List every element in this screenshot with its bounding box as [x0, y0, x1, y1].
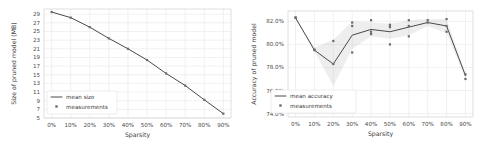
x-tick-label: 80%	[440, 121, 452, 127]
legend-marker-swatch	[55, 105, 57, 107]
measurement-point	[108, 37, 110, 39]
x-tick-label: 20%	[84, 122, 96, 128]
x-tick-label: 40%	[122, 122, 134, 128]
y-tick-label: 82.0%	[266, 18, 284, 24]
legend-marker-swatch	[279, 104, 281, 106]
measurement-point	[294, 16, 296, 18]
y-axis-label: Size of pruned model (MB)	[10, 22, 18, 104]
legend-label-mean: mean size	[66, 94, 95, 100]
y-tick-label: 19	[33, 54, 41, 60]
x-tick-label: 90%	[459, 121, 471, 127]
y-tick-label: 7	[36, 106, 40, 112]
measurement-point	[370, 31, 372, 33]
x-tick-label: 70%	[179, 122, 191, 128]
x-tick-label: 40%	[365, 121, 377, 127]
x-tick-label: 10%	[308, 121, 320, 127]
x-axis-label: Sparsity	[368, 130, 394, 138]
measurement-point	[184, 84, 186, 86]
measurement-point	[427, 21, 429, 23]
y-tick-label: 9	[36, 98, 40, 104]
y-tick-label: 27	[33, 20, 41, 26]
measurement-point	[389, 26, 391, 28]
y-tick-label: 21	[33, 46, 41, 52]
measurement-point	[408, 19, 410, 21]
x-tick-label: 80%	[198, 122, 210, 128]
measurement-point	[146, 59, 148, 61]
measurement-point	[165, 72, 167, 74]
measurement-point	[445, 18, 447, 20]
y-tick-label: 80.0%	[266, 41, 284, 47]
y-tick-label: 23	[33, 37, 41, 43]
accuracy-chart-svg: 74.0%76.0%78.0%80.0%82.0%0%10%20%30%40%5…	[240, 0, 480, 146]
x-axis-label: Sparsity	[125, 131, 151, 139]
y-tick-label: 17	[33, 63, 41, 69]
x-tick-label: 0%	[291, 121, 300, 127]
x-tick-label: 30%	[103, 122, 115, 128]
measurement-point	[464, 78, 466, 80]
y-tick-label: 29	[33, 11, 41, 17]
x-tick-label: 20%	[327, 121, 339, 127]
measurement-point	[389, 24, 391, 26]
x-tick-label: 30%	[346, 121, 358, 127]
measurement-point	[51, 11, 53, 13]
measurement-point	[464, 73, 466, 75]
y-tick-label: 5	[36, 115, 40, 121]
x-tick-label: 0%	[47, 122, 56, 128]
y-tick-label: 78.0%	[266, 64, 284, 70]
measurement-point	[370, 33, 372, 35]
accuracy-chart-panel: 74.0%76.0%78.0%80.0%82.0%0%10%20%30%40%5…	[240, 0, 480, 146]
figure-root: 579111315171921232527290%10%20%30%40%50%…	[0, 0, 480, 146]
measurement-point	[351, 25, 353, 27]
measurement-point	[351, 51, 353, 53]
x-tick-label: 90%	[217, 122, 229, 128]
measurement-point	[370, 19, 372, 21]
measurement-point	[89, 26, 91, 28]
measurement-point	[313, 48, 315, 50]
x-tick-label: 70%	[421, 121, 433, 127]
x-tick-label: 60%	[160, 122, 172, 128]
y-axis-label: Accuracy of pruned model	[250, 23, 258, 105]
x-tick-label: 50%	[141, 122, 153, 128]
y-tick-label: 25	[33, 28, 41, 34]
measurement-point	[127, 48, 129, 50]
legend-label-measurements: measurements	[66, 104, 108, 110]
measurement-point	[332, 63, 334, 65]
y-tick-label: 13	[33, 80, 41, 86]
measurement-point	[389, 43, 391, 45]
measurement-point	[222, 113, 224, 115]
measurement-point	[445, 31, 447, 33]
measurement-point	[408, 35, 410, 37]
y-tick-label: 15	[33, 72, 41, 78]
measurement-point	[427, 19, 429, 21]
measurement-point	[445, 25, 447, 27]
measurement-point	[203, 99, 205, 101]
measurement-point	[332, 40, 334, 42]
x-tick-label: 10%	[64, 122, 76, 128]
legend-label-measurements: measurements	[290, 103, 332, 109]
measurement-point	[408, 25, 410, 27]
size-chart-panel: 579111315171921232527290%10%20%30%40%50%…	[0, 0, 238, 146]
size-chart-svg: 579111315171921232527290%10%20%30%40%50%…	[0, 0, 238, 146]
measurement-point	[70, 17, 72, 19]
x-tick-label: 60%	[403, 121, 415, 127]
y-tick-label: 11	[33, 89, 41, 95]
legend-label-mean: mean accuracy	[290, 93, 334, 100]
x-tick-label: 50%	[384, 121, 396, 127]
confidence-band	[296, 17, 466, 86]
measurement-point	[351, 21, 353, 23]
